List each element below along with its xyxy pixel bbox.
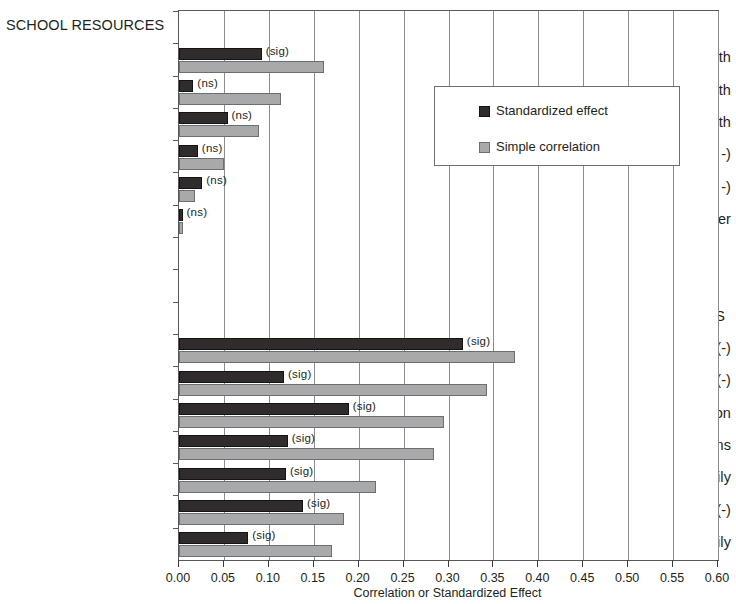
bar-standardized-effect <box>179 500 303 512</box>
x-axis-tick <box>582 560 583 567</box>
legend-entry-standardized-effect: Standardized effect <box>479 103 608 119</box>
bar-group: (sig) <box>179 43 718 78</box>
significance-annotation: (ns) <box>202 142 223 155</box>
legend-swatch-icon-standardized-effect <box>479 106 490 117</box>
bar-group: (sig) <box>179 528 718 563</box>
x-axis-tick <box>358 560 359 567</box>
x-axis-tick <box>223 560 224 567</box>
legend-label-simple-correlation: Simple correlation <box>496 139 600 155</box>
gridline <box>718 11 719 560</box>
x-axis-tick <box>627 560 628 567</box>
significance-annotation: (sig) <box>467 335 490 348</box>
category-axis-tick <box>173 269 179 270</box>
significance-annotation: (sig) <box>353 400 376 413</box>
bar-simple-correlation <box>179 481 376 493</box>
category-axis-tick <box>173 302 179 303</box>
bar-group: (sig) <box>179 399 718 434</box>
significance-annotation: (sig) <box>307 497 330 510</box>
bar-simple-correlation <box>179 351 515 363</box>
significance-annotation: (sig) <box>290 465 313 478</box>
bar-standardized-effect <box>179 338 463 350</box>
bar-standardized-effect <box>179 532 248 544</box>
bar-standardized-effect <box>179 80 193 92</box>
bar-standardized-effect <box>179 371 284 383</box>
x-axis-tick <box>672 560 673 567</box>
bar-simple-correlation <box>179 190 195 202</box>
bar-group: (sig) <box>179 334 718 369</box>
bar-group: (ns) <box>179 172 718 207</box>
bar-simple-correlation <box>179 384 487 396</box>
significance-annotation: (sig) <box>252 529 275 542</box>
bar-standardized-effect <box>179 435 288 447</box>
legend-label-standardized-effect: Standardized effect <box>496 103 608 119</box>
legend: Standardized effect Simple correlation <box>434 86 680 166</box>
bar-group: (sig) <box>179 366 718 401</box>
bar-standardized-effect <box>179 468 286 480</box>
bar-standardized-effect <box>179 209 183 221</box>
significance-annotation: (ns) <box>206 174 227 187</box>
bar-group: (ns) <box>179 205 718 240</box>
significance-annotation: (ns) <box>187 206 208 219</box>
category-group-header: SCHOOL RESOURCES <box>6 17 178 34</box>
bar-standardized-effect <box>179 403 349 415</box>
significance-annotation: (sig) <box>266 45 289 58</box>
bar-simple-correlation <box>179 448 434 460</box>
x-axis-tick <box>313 560 314 567</box>
legend-entry-simple-correlation: Simple correlation <box>479 139 600 155</box>
x-axis-tick <box>448 560 449 567</box>
bar-group: (sig) <box>179 431 718 466</box>
bar-simple-correlation <box>179 513 344 525</box>
bar-standardized-effect <box>179 48 262 60</box>
bar-standardized-effect <box>179 112 228 124</box>
significance-annotation: (sig) <box>292 432 315 445</box>
bar-simple-correlation <box>179 93 281 105</box>
legend-swatch-icon-simple-correlation <box>479 142 490 153</box>
bar-simple-correlation <box>179 125 259 137</box>
bar-standardized-effect <box>179 145 198 157</box>
x-axis-tick <box>717 560 718 567</box>
bar-standardized-effect <box>179 177 202 189</box>
significance-annotation: (ns) <box>232 109 253 122</box>
x-axis-tick <box>403 560 404 567</box>
bar-simple-correlation <box>179 222 183 234</box>
bar-simple-correlation <box>179 158 224 170</box>
bar-simple-correlation <box>179 545 332 557</box>
bar-simple-correlation <box>179 61 324 73</box>
category-axis-tick <box>173 11 179 12</box>
x-axis-tick <box>268 560 269 567</box>
significance-annotation: (ns) <box>197 77 218 90</box>
bar-simple-correlation <box>179 416 444 428</box>
x-axis-title: Correlation or Standardized Effect <box>178 586 717 601</box>
x-axis-tick-label: 0.60 <box>687 571 736 586</box>
x-axis-tick <box>537 560 538 567</box>
x-axis-tick <box>492 560 493 567</box>
bar-group: (sig) <box>179 495 718 530</box>
bar-group: (sig) <box>179 463 718 498</box>
significance-annotation: (sig) <box>288 368 311 381</box>
x-axis-tick <box>178 560 179 567</box>
